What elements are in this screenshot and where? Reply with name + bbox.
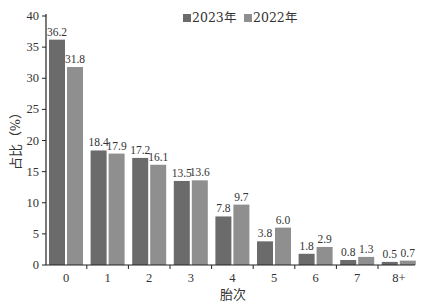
bar-2022年-4	[233, 205, 249, 265]
x-tick-label: 3	[188, 271, 194, 285]
bar-value-label: 7.8	[216, 202, 231, 214]
bar-2023年-0	[49, 40, 65, 265]
y-tick-label: 25	[27, 102, 40, 116]
legend-swatch	[183, 14, 191, 22]
x-tick-label: 1	[104, 271, 110, 285]
bar-2023年-5	[257, 241, 273, 265]
bar-2022年-7	[358, 257, 374, 265]
bar-value-label: 1.3	[359, 243, 374, 255]
y-tick-label: 15	[27, 165, 40, 179]
bar-2022年-5	[275, 228, 291, 265]
bar-value-label: 17.9	[107, 140, 127, 152]
x-tick-label: 7	[354, 271, 360, 285]
bar-2023年-1	[91, 150, 107, 265]
x-axis: 012345678+	[46, 265, 415, 285]
bar-value-label: 1.8	[299, 240, 314, 252]
bar-value-label: 6.0	[276, 214, 291, 226]
x-axis-title: 胎次	[220, 287, 246, 302]
y-tick-label: 5	[33, 227, 39, 241]
bar-2022年-0	[67, 67, 83, 265]
bar-value-label: 0.5	[383, 248, 398, 260]
bar-2023年-4	[215, 216, 231, 265]
legend-label: 2023年	[192, 10, 237, 25]
y-tick-label: 10	[27, 196, 40, 210]
bar-2023年-6	[299, 254, 315, 265]
legend-swatch	[244, 14, 252, 22]
x-tick-label: 0	[63, 271, 69, 285]
bars-group	[49, 40, 416, 265]
bar-2022年-3	[192, 180, 208, 265]
bar-value-label: 36.2	[47, 26, 67, 38]
bar-value-label: 3.8	[258, 227, 273, 239]
legend-item-2023年: 2023年	[183, 10, 237, 25]
bar-2022年-8+	[400, 261, 416, 265]
y-axis: 0510152025303540	[27, 9, 47, 272]
bar-2023年-3	[174, 181, 190, 265]
bar-value-label: 31.8	[65, 53, 85, 65]
bar-chart: 2023年2022年 36.231.818.417.917.216.113.51…	[0, 0, 423, 305]
y-tick-label: 0	[33, 258, 39, 272]
bar-value-label: 9.7	[234, 191, 249, 203]
bar-2022年-1	[109, 154, 125, 265]
y-axis-title: 占比（%）	[8, 106, 23, 170]
chart-legend: 2023年2022年	[183, 10, 298, 25]
legend-item-2022年: 2022年	[244, 10, 298, 25]
bar-2022年-2	[150, 165, 166, 265]
bar-2023年-7	[340, 260, 356, 265]
y-tick-label: 40	[27, 9, 40, 23]
x-tick-label: 2	[146, 271, 152, 285]
bar-2022年-6	[317, 247, 333, 265]
y-tick-label: 35	[27, 40, 40, 54]
x-tick-label: 5	[271, 271, 277, 285]
bar-value-label: 0.7	[401, 247, 416, 259]
x-tick-label: 4	[229, 271, 236, 285]
bar-value-label: 16.1	[148, 151, 168, 163]
legend-label: 2022年	[253, 10, 298, 25]
bar-value-label: 2.9	[317, 233, 332, 245]
y-tick-label: 20	[27, 134, 40, 148]
bar-value-label: 0.8	[341, 246, 356, 258]
bar-value-label: 13.6	[190, 166, 210, 178]
bar-2023年-2	[132, 158, 148, 265]
x-tick-label: 8+	[392, 271, 405, 285]
y-tick-label: 30	[27, 71, 40, 85]
x-tick-label: 6	[312, 271, 318, 285]
